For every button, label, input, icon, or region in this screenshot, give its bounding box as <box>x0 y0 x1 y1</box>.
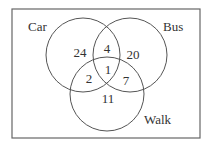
region-bus-walk-value: 7 <box>123 73 130 88</box>
region-car-bus-value: 4 <box>104 41 111 56</box>
walk-label: Walk <box>144 112 172 127</box>
region-all-three-value: 1 <box>105 62 112 77</box>
region-bus-only-value: 20 <box>127 47 140 62</box>
region-car-walk-value: 2 <box>86 71 93 86</box>
bus-label: Bus <box>163 19 183 34</box>
car-label: Car <box>28 19 47 34</box>
venn-diagram: Car Bus Walk 24 4 20 1 2 7 11 <box>0 0 211 146</box>
region-walk-only-value: 11 <box>102 91 115 106</box>
region-car-only-value: 24 <box>74 45 88 60</box>
